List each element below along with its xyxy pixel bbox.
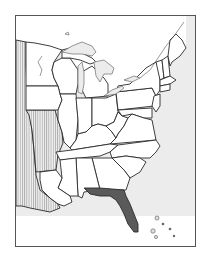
island	[173, 235, 175, 237]
island	[169, 228, 172, 231]
island	[162, 223, 165, 226]
lake-michigan	[78, 62, 84, 94]
island	[154, 235, 157, 238]
state-iowa	[26, 86, 62, 110]
map	[0, 0, 210, 261]
island	[151, 229, 155, 233]
island	[155, 216, 159, 220]
